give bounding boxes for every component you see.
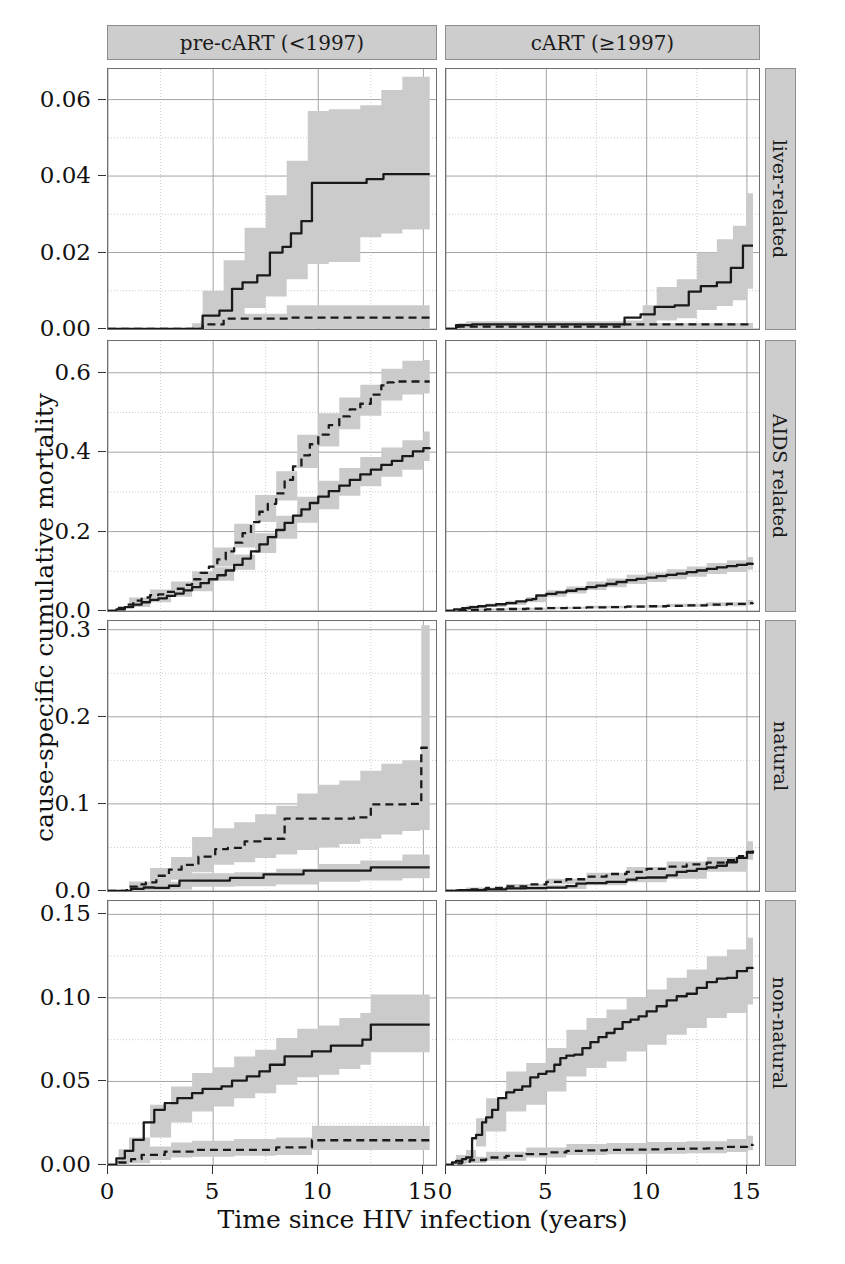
y-axis-tick — [98, 997, 106, 998]
confidence-band-dashed — [446, 1135, 753, 1165]
confidence-band-dashed — [108, 625, 430, 891]
y-axis-tick — [98, 1164, 106, 1165]
confidence-band-solid — [446, 191, 753, 329]
x-axis-tick — [107, 1165, 108, 1174]
y-axis-tick — [98, 913, 106, 914]
column-strip-precart: pre-cART (<1997) — [107, 25, 437, 60]
x-axis-tick — [545, 1165, 546, 1174]
panel-plot-area — [108, 341, 436, 611]
panel-plot-area — [108, 69, 436, 329]
y-tick-label: 0.15 — [0, 900, 91, 926]
y-tick-label: 0.00 — [0, 315, 91, 341]
panel-aids-related-precart — [107, 340, 437, 612]
figure-canvas: pre-cART (<1997) cART (≥1997) liver-rela… — [0, 0, 845, 1264]
confidence-band-solid — [108, 76, 430, 329]
panel-plot-area — [446, 901, 759, 1165]
y-axis-tick — [98, 890, 106, 891]
y-axis-tick — [98, 372, 106, 373]
y-tick-label: 0.10 — [0, 984, 91, 1010]
confidence-band-solid — [446, 937, 753, 1165]
row-strip-aids-related-label: AIDS related — [770, 414, 792, 538]
column-strip-cart-label: cART (≥1997) — [531, 31, 674, 55]
x-tick-label: 0 — [100, 1178, 115, 1204]
y-tick-label: 0.4 — [0, 438, 91, 464]
row-strip-liver-related-label: liver-related — [770, 140, 792, 258]
y-tick-label: 0.6 — [0, 359, 91, 385]
x-axis-tick — [445, 1165, 446, 1174]
panel-non-natural-precart — [107, 900, 437, 1166]
y-axis-tick — [98, 252, 106, 253]
panel-plot-area — [108, 901, 436, 1165]
y-axis-tick — [98, 531, 106, 532]
y-axis-tick — [98, 610, 106, 611]
confidence-band-dashed — [108, 360, 430, 611]
y-axis-tick — [98, 99, 106, 100]
column-strip-precart-label: pre-cART (<1997) — [180, 31, 364, 55]
x-tick-label: 10 — [631, 1178, 660, 1204]
column-strip-cart: cART (≥1997) — [445, 25, 760, 60]
panel-natural-precart — [107, 620, 437, 892]
panel-liver-related-precart — [107, 68, 437, 330]
y-tick-label: 0.2 — [0, 703, 91, 729]
x-axis-tick — [317, 1165, 318, 1174]
y-axis-tick — [98, 451, 106, 452]
y-tick-label: 0.06 — [0, 86, 91, 112]
row-strip-natural: natural — [765, 620, 796, 892]
x-tick-label: 15 — [408, 1178, 437, 1204]
y-tick-label: 0.04 — [0, 162, 91, 188]
y-tick-label: 0.00 — [0, 1151, 91, 1177]
x-tick-label: 0 — [438, 1178, 453, 1204]
y-axis-tick — [98, 328, 106, 329]
panel-plot-area — [446, 621, 759, 891]
y-tick-label: 0.0 — [0, 877, 91, 903]
y-tick-label: 0.05 — [0, 1067, 91, 1093]
row-strip-aids-related: AIDS related — [765, 340, 796, 612]
x-axis-tick — [746, 1165, 747, 1174]
x-axis-tick — [212, 1165, 213, 1174]
panel-plot-area — [446, 341, 759, 611]
panel-natural-cart — [445, 620, 760, 892]
x-axis-tick — [422, 1165, 423, 1174]
y-tick-label: 0.2 — [0, 518, 91, 544]
x-tick-label: 5 — [538, 1178, 553, 1204]
confidence-band-dashed — [108, 304, 430, 329]
x-axis-tick — [646, 1165, 647, 1174]
x-tick-label: 5 — [205, 1178, 220, 1204]
row-strip-natural-label: natural — [770, 721, 792, 791]
panel-aids-related-cart — [445, 340, 760, 612]
y-axis-tick — [98, 175, 106, 176]
y-axis-tick — [98, 803, 106, 804]
row-strip-non-natural-label: non-natural — [770, 977, 792, 1089]
panel-non-natural-cart — [445, 900, 760, 1166]
y-axis-tick — [98, 1080, 106, 1081]
y-tick-label: 0.1 — [0, 790, 91, 816]
panel-plot-area — [108, 621, 436, 891]
y-axis-tick — [98, 629, 106, 630]
y-tick-label: 0.3 — [0, 616, 91, 642]
y-tick-label: 0.02 — [0, 239, 91, 265]
x-tick-label: 10 — [303, 1178, 332, 1204]
row-strip-non-natural: non-natural — [765, 900, 796, 1166]
panel-liver-related-cart — [445, 68, 760, 330]
x-axis-title: Time since HIV infection (years) — [0, 1205, 845, 1234]
row-strip-liver-related: liver-related — [765, 68, 796, 330]
x-tick-label: 15 — [731, 1178, 760, 1204]
y-axis-tick — [98, 716, 106, 717]
panel-plot-area — [446, 69, 759, 329]
